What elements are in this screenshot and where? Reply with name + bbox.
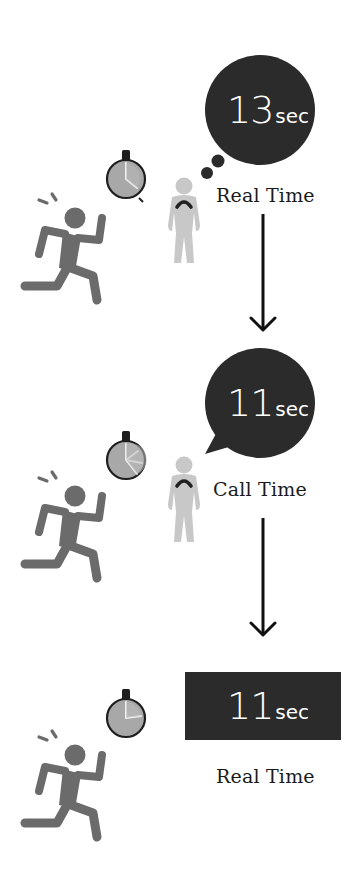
time-unit: sec	[275, 397, 309, 421]
panel-1-time: 13 sec	[227, 88, 309, 132]
panel-3-caption: Real Time	[216, 765, 315, 787]
panel-1-caption: Real Time	[216, 184, 315, 206]
arrow-down-icon	[251, 518, 275, 635]
observer-figure	[168, 457, 200, 543]
time-unit: sec	[275, 700, 309, 724]
runner-figure	[25, 472, 102, 578]
time-value: 11	[227, 381, 273, 425]
runner-figure	[25, 194, 102, 300]
time-unit: sec	[275, 104, 309, 128]
arrow-down-icon	[251, 214, 275, 330]
stopwatch-icon	[107, 689, 145, 737]
time-value: 11	[227, 684, 273, 728]
panel-2-time: 11 sec	[227, 381, 309, 425]
stopwatch-icon	[107, 431, 147, 479]
stopwatch-icon	[107, 150, 145, 202]
observer-figure	[168, 178, 200, 264]
time-value: 13	[227, 88, 273, 132]
panel-3-time: 11 sec	[227, 684, 309, 728]
runner-figure	[25, 731, 102, 837]
panel-2-caption: Call Time	[213, 478, 307, 500]
